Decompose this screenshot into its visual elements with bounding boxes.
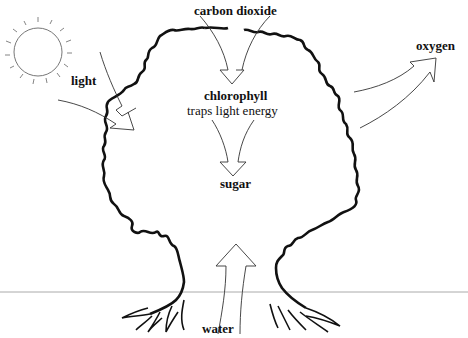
label-sugar: sugar: [220, 177, 251, 190]
label-carbon-dioxide: carbon dioxide: [194, 4, 277, 17]
tree-outline: [103, 27, 205, 314]
tree-outline-right: [258, 32, 359, 308]
label-oxygen: oxygen: [416, 39, 455, 52]
photosynthesis-diagram: [0, 0, 468, 338]
light-arrow-bottom: [58, 100, 134, 130]
co2-arrow-left: [200, 16, 244, 84]
arrows: [58, 16, 436, 334]
oxygen-arrow-top: [354, 58, 436, 128]
sugar-arrow: [212, 120, 254, 176]
sun-icon: [5, 17, 72, 84]
label-light: light: [71, 74, 96, 87]
label-water: water: [202, 322, 234, 335]
tree-canopy-top: [205, 27, 258, 32]
co2-arrow-right: [242, 16, 270, 70]
label-chlorophyll-desc: traps light energy: [187, 104, 278, 117]
label-chlorophyll: chlorophyll: [204, 89, 267, 102]
